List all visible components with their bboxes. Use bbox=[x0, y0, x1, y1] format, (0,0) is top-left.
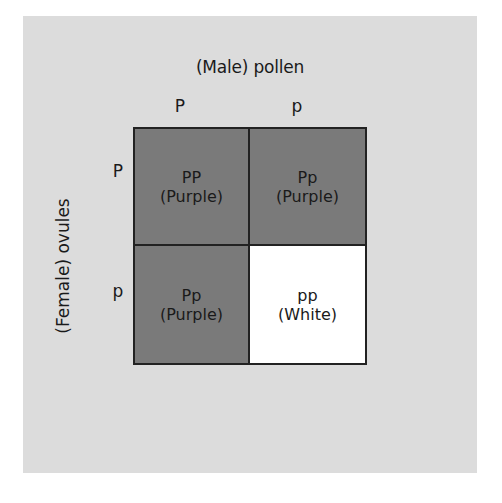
cell-genotype: Pp bbox=[182, 286, 202, 305]
cell-phenotype: (Purple) bbox=[160, 305, 223, 324]
cell-Pp-top: Pp (Purple) bbox=[250, 129, 365, 246]
cell-phenotype: (Purple) bbox=[276, 187, 339, 206]
row-allele-1: P bbox=[108, 161, 128, 181]
punnett-grid: PP (Purple) Pp (Purple) Pp (Purple) pp (… bbox=[133, 127, 367, 365]
cell-genotype: PP bbox=[182, 168, 201, 187]
cell-phenotype: (Purple) bbox=[160, 187, 223, 206]
cell-genotype: pp bbox=[297, 286, 317, 305]
row-allele-2: p bbox=[108, 281, 128, 301]
cell-genotype: Pp bbox=[298, 168, 318, 187]
diagram-panel: (Male) pollen P p (Female) ovules P p PP… bbox=[23, 16, 477, 473]
cell-pp: pp (White) bbox=[250, 246, 365, 363]
column-allele-2: p bbox=[277, 96, 317, 116]
row-title: (Female) ovules bbox=[53, 196, 73, 336]
column-title: (Male) pollen bbox=[23, 57, 477, 77]
column-allele-1: P bbox=[160, 96, 200, 116]
cell-Pp-bottom: Pp (Purple) bbox=[135, 246, 250, 363]
cell-PP: PP (Purple) bbox=[135, 129, 250, 246]
cell-phenotype: (White) bbox=[278, 305, 337, 324]
